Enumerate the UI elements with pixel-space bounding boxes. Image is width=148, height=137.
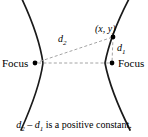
d1-subscript: 1 (122, 48, 126, 56)
d2-distance-label: d2 (58, 34, 67, 47)
hyperbola-figure: Focus Focus (x, y) d2 d1 d2 – d1 is a po… (0, 0, 148, 137)
caption-text: is a positive constant. (43, 119, 132, 130)
figure-caption: d2 – d1 is a positive constant. (0, 119, 148, 133)
focus-left-dot (33, 61, 38, 66)
d2-dashed-segment (35, 37, 113, 63)
caption-d2: d2 (16, 119, 25, 130)
d1-dashed-segment (112, 37, 113, 63)
focus-right-label: Focus (118, 58, 144, 69)
caption-minus-sign: – (25, 119, 35, 130)
d1-distance-label: d1 (117, 43, 126, 56)
focus-left-label: Focus (2, 58, 28, 69)
d2-subscript: 2 (63, 39, 67, 47)
point-coordinate-label: (x, y) (95, 24, 116, 34)
caption-d1: d1 (35, 119, 44, 130)
point-xy-dot (111, 35, 116, 40)
focus-right-dot (110, 61, 115, 66)
